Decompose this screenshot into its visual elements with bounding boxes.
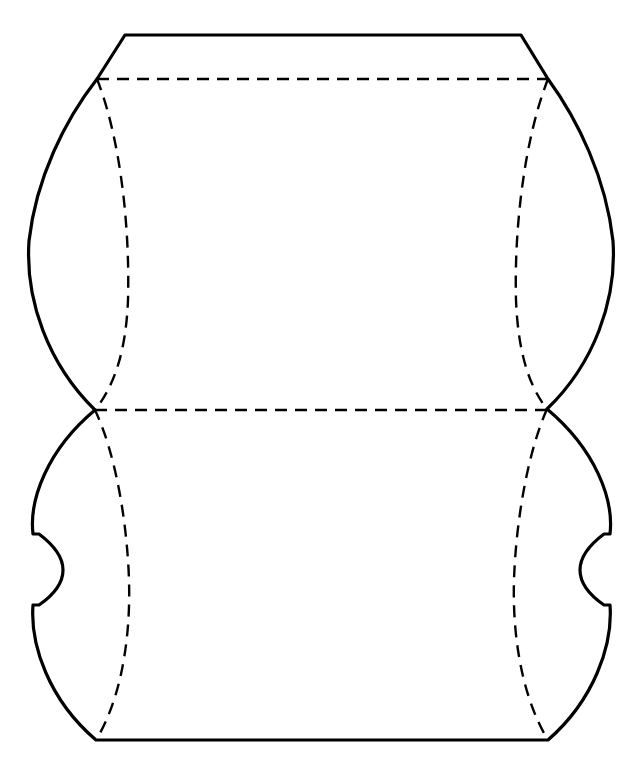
figure-canvas [0,0,642,778]
blank-body-fill [29,35,614,740]
carton-blank-drawing [0,0,642,778]
